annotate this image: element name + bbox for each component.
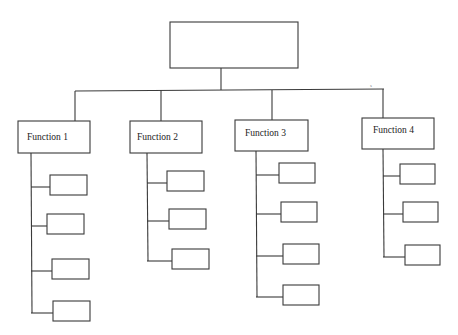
function-1-stem — [31, 153, 32, 313]
function-3-label: Function 3 — [245, 128, 286, 138]
function-4-child-1-box — [400, 164, 435, 184]
function-3-child-4-box — [283, 285, 319, 305]
function-1-child-3-box — [52, 259, 89, 279]
function-4-label: Function 4 — [373, 125, 414, 135]
function-3-child-1-box — [279, 163, 315, 183]
org-chart: s Function 1Function 2Function 3Function… — [0, 0, 458, 335]
root-box — [170, 22, 298, 68]
function-1-child-2-box — [47, 214, 84, 234]
function-2-stem — [147, 153, 148, 261]
function-4-stem — [383, 149, 384, 257]
function-3-stem — [256, 151, 257, 297]
function-1-child-1-box — [50, 175, 87, 195]
function-4-child-3-box — [405, 245, 440, 265]
stray-mark: s — [370, 83, 372, 88]
function-2-child-1-box — [167, 171, 204, 191]
function-3-child-3-box — [283, 244, 319, 264]
function-2-label: Function 2 — [137, 132, 178, 142]
function-4-child-2-box — [403, 202, 438, 222]
function-2-child-2-box — [169, 209, 206, 229]
function-2-child-3-box — [172, 249, 209, 269]
function-3-child-2-box — [281, 202, 317, 222]
function-1-label: Function 1 — [27, 132, 68, 142]
function-1-child-4-box — [53, 301, 90, 321]
function-bus-line — [75, 89, 384, 91]
